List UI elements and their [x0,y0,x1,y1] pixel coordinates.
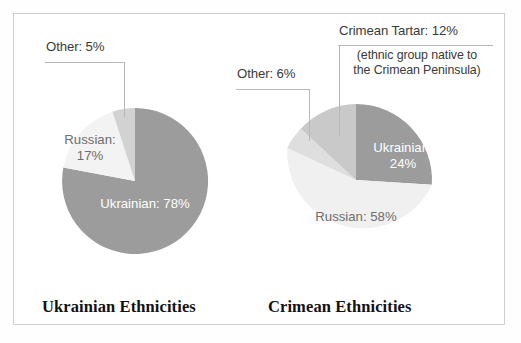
figure-root: Other: 5% Russian: 17% Ukrainian: 78% Uk… [0,0,521,343]
callout-note-crimean-tartar: (ethnic group native to the Crimean Peni… [344,48,490,77]
slice-label-russian-line2: 17% [77,148,103,163]
pie-chart-crimean [280,104,432,256]
callout-note-line2: the Crimean Peninsula) [353,63,480,77]
chart-title-ukrainian: Ukrainian Ethnicities [42,297,196,317]
slice-label-russian-crimean: Russian: 58% [297,209,415,225]
callout-label-other-crimean: Other: 6% [237,66,295,81]
chart-title-crimean: Crimean Ethnicities [268,297,412,317]
slice-label-russian-ukrainian: Russian: 17% [54,132,126,164]
callout-note-line1: (ethnic group native to [357,48,477,62]
callout-underline-other-crimean [236,89,310,90]
pie-slices-ukrainian [62,108,208,254]
callout-leader-crimean-tartar [339,45,340,136]
callout-label-crimean-tartar: Crimean Tartar: 12% [339,23,458,38]
callout-underline-other-ukrainian [45,62,125,63]
pie-chart-ukrainian [62,108,208,254]
slice-label-ukrainian-line1: Ukrainian: [373,140,432,155]
slice-label-ukrainian-line2: 24% [390,156,416,171]
callout-leader-other-ukrainian [124,62,125,118]
callout-label-other-ukrainian: Other: 5% [46,39,104,54]
slice-label-ukrainian-ukrainian: Ukrainian: 78% [90,196,200,212]
callout-underline-crimean-tartar [338,45,493,46]
slice-label-ukrainian-crimean: Ukrainian: 24% [361,140,445,172]
callout-leader-other-crimean [309,89,310,141]
charts-container: Other: 5% Russian: 17% Ukrainian: 78% Uk… [0,0,521,343]
slice-label-russian-line1: Russian: [64,132,115,147]
